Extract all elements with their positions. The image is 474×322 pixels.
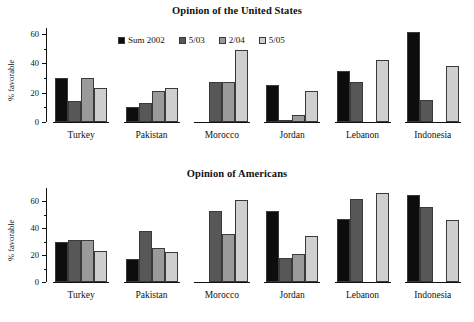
x-axis-segment xyxy=(264,122,320,123)
legend-swatch xyxy=(118,37,125,44)
bar xyxy=(407,32,420,122)
x-axis-segment xyxy=(194,122,250,123)
y-axis-tick-label: 60 xyxy=(23,197,39,206)
bar xyxy=(152,248,165,282)
bar xyxy=(376,193,389,282)
bar xyxy=(292,115,305,122)
bar xyxy=(94,88,107,122)
bar xyxy=(165,252,178,282)
legend-item: Sum 2002 xyxy=(118,36,165,45)
bar xyxy=(446,220,459,282)
bar xyxy=(55,78,68,122)
y-axis-tick-label: 60 xyxy=(23,30,39,39)
bar xyxy=(292,254,305,282)
bar xyxy=(81,240,94,282)
y-axis-tick xyxy=(42,93,46,94)
x-axis-segment xyxy=(53,122,109,123)
legend-swatch xyxy=(179,37,186,44)
chart-legend: Sum 20025/032/045/05 xyxy=(118,36,299,45)
y-axis-tick xyxy=(44,49,47,50)
bar xyxy=(305,91,318,122)
legend-swatch xyxy=(259,37,266,44)
legend-label: 2/04 xyxy=(229,36,245,45)
legend-item: 5/03 xyxy=(179,36,205,45)
bar xyxy=(305,236,318,282)
chart-title-top: Opinion of the United States xyxy=(0,0,474,16)
y-axis-tick xyxy=(42,228,46,229)
chart-panel-opinion-americans: Opinion of Americans % favorable 0204060… xyxy=(0,165,474,322)
bar xyxy=(68,101,81,122)
legend-label: 5/03 xyxy=(189,36,205,45)
y-axis-tick-label: 40 xyxy=(23,224,39,233)
x-axis-segment xyxy=(124,122,180,123)
x-axis-segment xyxy=(405,122,461,123)
bar xyxy=(68,240,81,282)
bar xyxy=(81,78,94,122)
y-axis-tick xyxy=(42,122,46,123)
bar xyxy=(126,107,139,122)
y-axis-line xyxy=(46,28,47,122)
bar xyxy=(94,251,107,282)
bar xyxy=(350,82,363,122)
bars-layer-bottom xyxy=(0,188,474,282)
y-axis-tick-label: 20 xyxy=(23,251,39,260)
y-axis-tick-label: 40 xyxy=(23,59,39,68)
x-axis-segment xyxy=(194,282,250,283)
legend-label: Sum 2002 xyxy=(128,36,165,45)
bar xyxy=(209,82,222,122)
x-axis-segment xyxy=(335,122,391,123)
legend-item: 5/05 xyxy=(259,36,285,45)
bar xyxy=(165,88,178,122)
x-axis-segment xyxy=(264,282,320,283)
bar xyxy=(139,231,152,282)
bar xyxy=(337,71,350,122)
bar xyxy=(55,242,68,282)
bar xyxy=(126,259,139,282)
bar xyxy=(279,258,292,282)
x-axis-segment xyxy=(405,282,461,283)
x-axis-segment xyxy=(53,282,109,283)
bar xyxy=(376,60,389,122)
x-axis-segment xyxy=(124,282,180,283)
y-axis-tick xyxy=(44,269,47,270)
y-axis-tick-label: 0 xyxy=(23,118,39,127)
bar xyxy=(266,211,279,282)
y-axis-tick xyxy=(42,63,46,64)
legend-swatch xyxy=(219,37,226,44)
plot-area-bottom: % favorable 0204060TurkeyPakistanMorocco… xyxy=(0,188,474,308)
bar xyxy=(266,85,279,122)
y-axis-tick xyxy=(44,215,47,216)
bar xyxy=(420,100,433,122)
y-axis-line xyxy=(46,188,47,282)
plot-area-top: % favorable 0204060TurkeyPakistanMorocco… xyxy=(0,28,474,148)
bar xyxy=(350,199,363,282)
y-axis-tick-label: 20 xyxy=(23,89,39,98)
bar xyxy=(222,82,235,122)
y-axis-tick-label: 0 xyxy=(23,278,39,287)
y-axis-tick xyxy=(44,107,47,108)
y-axis-tick xyxy=(42,255,46,256)
y-axis-tick xyxy=(42,282,46,283)
bar xyxy=(222,234,235,282)
x-axis-group-label: Indonesia xyxy=(387,131,474,141)
legend-item: 2/04 xyxy=(219,36,245,45)
chart-panel-opinion-us: Opinion of the United States % favorable… xyxy=(0,0,474,165)
chart-title-bottom: Opinion of Americans xyxy=(0,165,474,179)
y-axis-tick xyxy=(42,34,46,35)
y-axis-tick xyxy=(42,201,46,202)
bar xyxy=(407,195,420,282)
bar xyxy=(209,211,222,282)
bar xyxy=(235,50,248,122)
x-axis-segment xyxy=(335,282,391,283)
bar xyxy=(420,207,433,282)
bar xyxy=(139,103,152,122)
bar xyxy=(279,120,292,122)
bar xyxy=(152,91,165,122)
x-axis-group-label: Indonesia xyxy=(387,291,474,301)
y-axis-tick xyxy=(44,78,47,79)
bar xyxy=(235,200,248,282)
bar xyxy=(337,219,350,282)
y-axis-tick xyxy=(44,242,47,243)
legend-label: 5/05 xyxy=(269,36,285,45)
bar xyxy=(446,66,459,122)
